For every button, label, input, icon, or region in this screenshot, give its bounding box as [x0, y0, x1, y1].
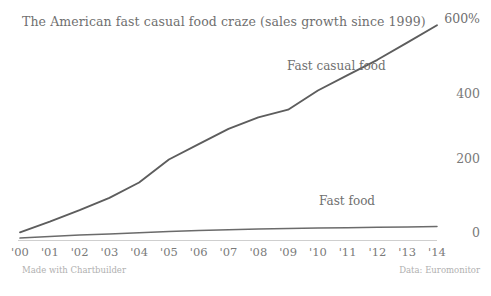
x-axis-tick-12: '12: [368, 245, 386, 259]
x-axis-tick-01: '01: [41, 245, 59, 259]
plot-area: Fast casual food Fast food: [0, 0, 491, 252]
x-axis-tick-11: '11: [339, 245, 357, 259]
chart-container: The American fast casual food craze (sal…: [0, 0, 491, 296]
x-axis-tick-08: '08: [249, 245, 267, 259]
x-axis-labels: '00'01'02'03'04'05'06'07'08'09'10'11'12'…: [0, 245, 491, 261]
footer-credit: Made with Chartbuilder: [22, 265, 126, 275]
x-axis-tick-04: '04: [130, 245, 148, 259]
x-axis-tick-07: '07: [220, 245, 238, 259]
x-axis-tick-03: '03: [100, 245, 118, 259]
x-axis-tick-14: '14: [428, 245, 446, 259]
x-axis-tick-10: '10: [309, 245, 327, 259]
series-label-fast-food: Fast food: [319, 194, 375, 208]
plot-svg: [0, 0, 491, 252]
x-axis-tick-05: '05: [160, 245, 178, 259]
footer-source: Data: Euromonitor: [399, 265, 480, 275]
series-label-fast-casual-food: Fast casual food: [287, 59, 386, 73]
x-axis-tick-09: '09: [279, 245, 297, 259]
x-axis-tick-06: '06: [190, 245, 208, 259]
x-axis-tick-00: '00: [11, 245, 29, 259]
x-axis-tick-02: '02: [71, 245, 89, 259]
series-line-fast-food: [20, 227, 437, 239]
x-axis-tick-13: '13: [398, 245, 416, 259]
chart-footer: Made with Chartbuilder Data: Euromonitor: [0, 265, 491, 279]
